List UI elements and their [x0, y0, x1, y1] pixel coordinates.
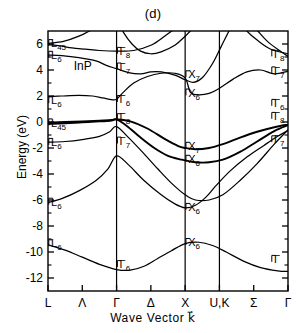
svg-text:Γ8: Γ8	[274, 110, 285, 125]
svg-text:L6: L6	[51, 196, 62, 211]
x-axis-ticks: LΛΓΔXU,KΣΓ	[45, 285, 292, 310]
band-curve	[48, 242, 288, 271]
y-tick-label: 6	[36, 37, 43, 51]
y-tick-label: 0	[36, 115, 43, 129]
band-curves	[48, 15, 288, 271]
svg-text:Γ8: Γ8	[274, 48, 285, 63]
band-structure-plot: 6420-2-4-6-8-10-12 LΛΓΔXU,KΣΓ L45L6L6L45…	[0, 0, 306, 333]
band-curve	[117, 18, 203, 54]
x-tick-label: X	[181, 296, 189, 310]
svg-text:L45: L45	[51, 117, 67, 132]
band-curve	[48, 70, 288, 100]
x-tick-label: U,K	[209, 296, 229, 310]
svg-text:L6: L6	[51, 136, 62, 151]
material-name-label: InP	[74, 59, 92, 73]
y-tick-label: -12	[26, 271, 44, 285]
svg-text:Γ8: Γ8	[120, 111, 131, 126]
svg-text:Γ7: Γ7	[274, 133, 285, 148]
y-tick-label: -8	[32, 219, 43, 233]
band-point-label: Γ8	[272, 48, 285, 63]
band-point-label: Γ8	[272, 110, 285, 125]
y-tick-label: 4	[36, 63, 43, 77]
band-point-label: Γ7	[272, 65, 285, 80]
band-point-label: Γ	[272, 253, 280, 265]
svg-text:X6: X6	[188, 153, 200, 168]
svg-text:X6: X6	[188, 236, 200, 251]
svg-text:Γ6: Γ6	[120, 258, 131, 273]
svg-text:L6: L6	[51, 237, 62, 252]
x-tick-label: Λ	[78, 296, 86, 310]
band-point-label: Γ7	[117, 61, 130, 76]
band-point-label: L6	[49, 237, 62, 252]
svg-text:Γ: Γ	[274, 253, 280, 265]
y-tick-label: -10	[26, 245, 44, 259]
band-point-label: L45	[49, 117, 67, 132]
band-point-label: X6	[186, 87, 201, 102]
band-curve	[245, 18, 288, 56]
band-point-label: Γ6	[117, 93, 130, 108]
svg-text:Γ7: Γ7	[120, 61, 131, 76]
y-tick-label: -2	[32, 141, 43, 155]
y-tick-label: 2	[36, 89, 43, 103]
band-point-label: L6	[49, 136, 62, 151]
svg-text:Γ7: Γ7	[274, 65, 285, 80]
band-point-label: X6	[186, 153, 201, 168]
material-label: InP	[74, 59, 92, 73]
x-tick-label: Δ	[147, 296, 155, 310]
x-tick-label: Γ	[285, 296, 292, 310]
y-tick-label: -6	[32, 193, 43, 207]
band-structure-figure: (d) Energy (eV) Wave Vector k⃗ 6420-2-4-…	[0, 0, 306, 333]
band-point-label: X6	[186, 236, 201, 251]
x-tick-label: Γ	[113, 296, 120, 310]
svg-text:Γ8: Γ8	[120, 45, 131, 60]
band-curve	[48, 126, 288, 200]
band-point-label: Γ8	[117, 45, 130, 60]
x-tick-label: Σ	[250, 296, 257, 310]
x-tick-label: L	[45, 296, 52, 310]
band-curve	[48, 15, 117, 43]
svg-text:X6: X6	[188, 87, 200, 102]
band-point-label: L6	[49, 196, 62, 211]
svg-text:Γ7: Γ7	[120, 135, 131, 150]
y-tick-label: -4	[32, 167, 43, 181]
svg-text:Γ6: Γ6	[120, 93, 131, 108]
